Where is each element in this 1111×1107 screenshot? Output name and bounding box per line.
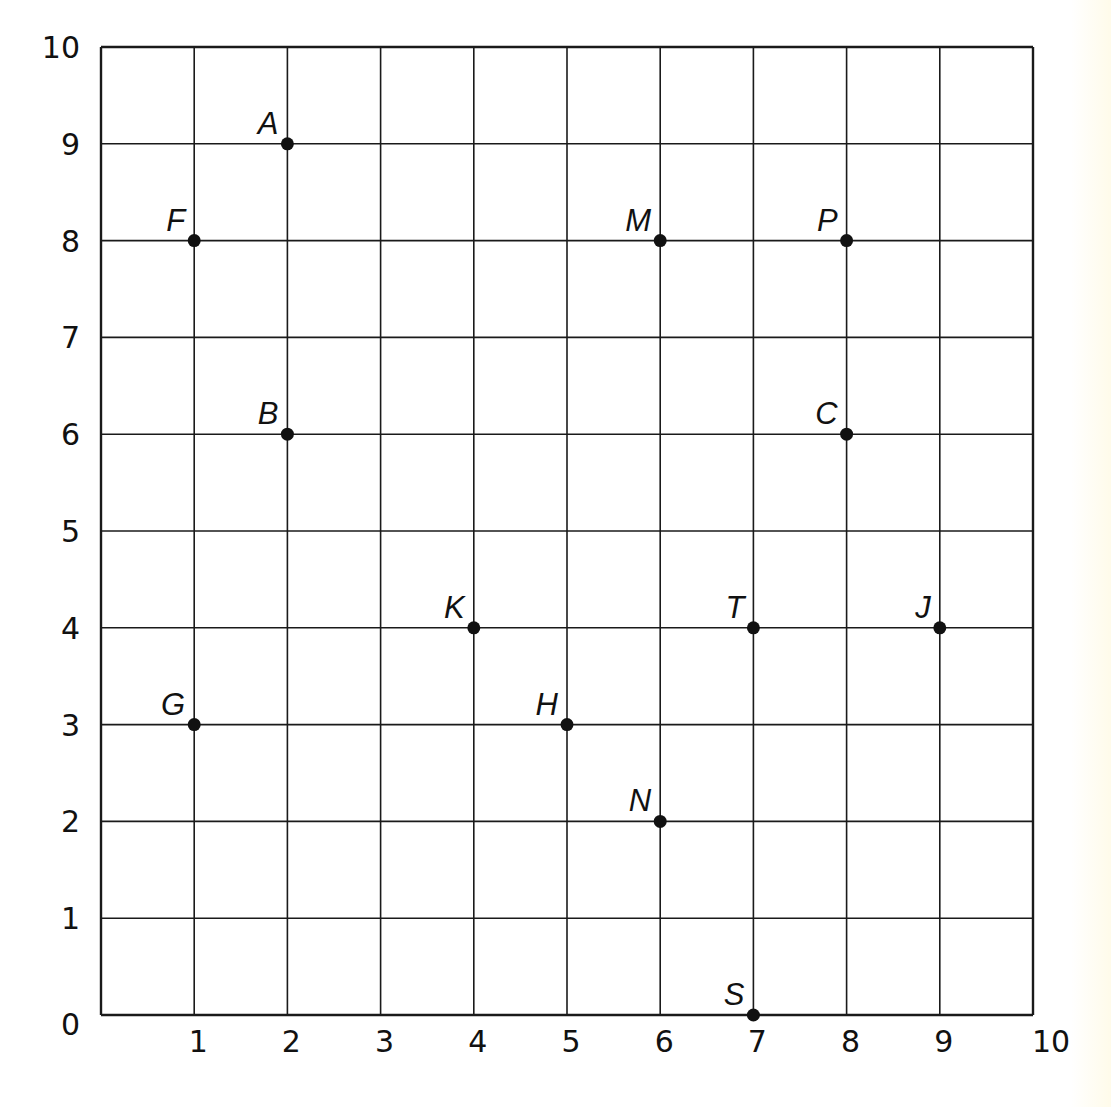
point-label: A [256, 106, 279, 141]
point-marker [747, 621, 760, 634]
x-tick-label: 2 [282, 1024, 301, 1059]
point-marker [281, 137, 294, 150]
y-tick-label: 2 [61, 804, 80, 839]
point-label: J [914, 590, 931, 625]
y-tick-label: 4 [61, 611, 80, 646]
x-tick-label: 4 [468, 1024, 487, 1059]
coordinate-grid-chart: 012345678910 12345678910 AFMPBCKTJGHNS [0, 0, 1111, 1107]
point-marker [747, 1009, 760, 1022]
point-marker [840, 428, 853, 441]
point-label: G [161, 687, 185, 722]
x-tick-label: 8 [841, 1024, 860, 1059]
y-tick-label: 9 [61, 127, 80, 162]
point-label: T [725, 590, 746, 625]
data-points: AFMPBCKTJGHNS [161, 106, 946, 1022]
point-marker [188, 718, 201, 731]
y-tick-label: 1 [61, 901, 80, 936]
y-axis-ticks: 012345678910 [42, 30, 80, 1042]
point-marker [933, 621, 946, 634]
point-marker [654, 815, 667, 828]
y-tick-label: 6 [61, 417, 80, 452]
point-label: B [258, 396, 279, 431]
point-marker [467, 621, 480, 634]
point-label: S [724, 977, 745, 1012]
grid-lines [101, 47, 1033, 1015]
point-marker [281, 428, 294, 441]
point-label: P [817, 203, 838, 238]
x-axis-ticks: 12345678910 [189, 1024, 1070, 1059]
page-edge-shading [1071, 0, 1111, 1107]
x-tick-label: 9 [934, 1024, 953, 1059]
y-tick-label: 8 [61, 224, 80, 259]
y-tick-label: 3 [61, 708, 80, 743]
point-label: H [536, 687, 559, 722]
x-tick-label: 3 [375, 1024, 394, 1059]
y-tick-label: 7 [61, 320, 80, 355]
point-marker [561, 718, 574, 731]
x-tick-label: 1 [189, 1024, 208, 1059]
point-marker [840, 234, 853, 247]
y-tick-label: 0 [61, 1007, 80, 1042]
point-marker [188, 234, 201, 247]
point-label: F [166, 203, 187, 238]
x-tick-label: 7 [748, 1024, 767, 1059]
x-tick-label: 10 [1032, 1024, 1070, 1059]
y-tick-label: 10 [42, 30, 80, 65]
point-marker [654, 234, 667, 247]
y-tick-label: 5 [61, 514, 80, 549]
point-label: K [444, 590, 466, 625]
x-tick-label: 5 [561, 1024, 580, 1059]
x-tick-label: 6 [655, 1024, 674, 1059]
point-label: C [815, 396, 838, 431]
point-label: N [629, 783, 652, 818]
point-label: M [625, 203, 651, 238]
